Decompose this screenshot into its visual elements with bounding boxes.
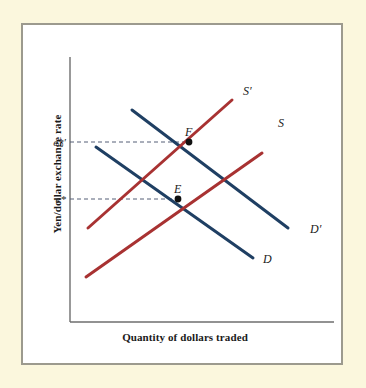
- figure-root: e*′ e* S′ S D′ D F E Quantity of dollars…: [0, 0, 366, 388]
- curve-label-s: S: [278, 116, 284, 131]
- curve-label-d: D: [263, 252, 272, 267]
- point-label-e: E: [174, 182, 181, 197]
- figure-panel: [21, 23, 343, 365]
- y-axis-title: Yen/dollar exchange rate: [51, 79, 63, 269]
- x-axis-title: Quantity of dollars traded: [60, 331, 310, 343]
- curve-label-s-prime: S′: [243, 84, 252, 99]
- curve-label-d-prime: D′: [310, 222, 321, 237]
- point-label-f: F: [185, 125, 192, 140]
